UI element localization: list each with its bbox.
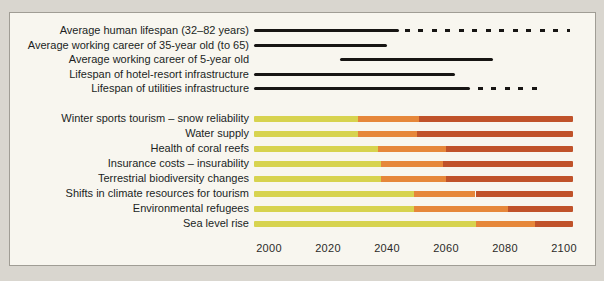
lifespan-line-solid (254, 29, 399, 32)
impact-bar-segment-red (443, 161, 573, 167)
x-axis-tick-label: 2060 (424, 241, 468, 255)
impact-bar-segment-red (535, 221, 573, 227)
impact-bar (254, 131, 573, 137)
impact-bar (254, 221, 573, 227)
lifespan-line-solid (254, 44, 387, 47)
impact-bar-segment-orange (381, 161, 443, 167)
impact-row: Environmental refugees (10, 201, 595, 216)
impact-bar-segment-orange (358, 131, 417, 137)
x-axis-tick-label: 2080 (483, 241, 527, 255)
impact-bar-segment-orange (378, 146, 446, 152)
impact-bar-segment-yellow (254, 146, 378, 152)
impact-bar (254, 176, 573, 182)
lifespan-row-label: Average human lifespan (32–82 years) (10, 23, 249, 38)
impact-bar-segment-red (446, 146, 573, 152)
figure-canvas: { "colors": { "outer_background": "#d9d6… (0, 0, 604, 281)
x-axis-tick-label: 2100 (542, 241, 586, 255)
impact-bar-segment-yellow (254, 221, 475, 227)
x-axis-tick-label: 2000 (247, 241, 291, 255)
lifespan-line-solid (340, 58, 493, 61)
impact-row: Health of coral reefs (10, 141, 595, 156)
impact-row-label: Shifts in climate resources for tourism (10, 186, 249, 201)
lifespan-row: Average working career of 35-year old (t… (10, 38, 595, 53)
impact-bar-segment-orange (414, 206, 508, 212)
impact-bar-segment-red (508, 206, 573, 212)
impact-bar (254, 146, 573, 152)
impact-row-label: Insurance costs – insurability (10, 156, 249, 171)
impact-bar-segment-yellow (254, 206, 413, 212)
lifespan-line-solid (254, 73, 455, 76)
impact-bar-segment-orange (476, 221, 535, 227)
impact-bar (254, 116, 573, 122)
impact-row-label: Terrestrial biodiversity changes (10, 171, 249, 186)
lifespan-line-dashed (478, 87, 543, 90)
impact-row: Winter sports tourism – snow reliability (10, 111, 595, 126)
impact-bar-segment-yellow (254, 131, 357, 137)
impact-bar-segment-orange (358, 116, 420, 122)
impact-bar-segment-yellow (254, 116, 357, 122)
impact-bar-segment-red (476, 191, 573, 197)
lifespan-row: Average working career of 5-year old (10, 52, 595, 67)
lifespan-row-label: Average working career of 35-year old (t… (10, 38, 249, 53)
impact-bar-segment-yellow (254, 191, 413, 197)
impact-row: Insurance costs – insurability (10, 156, 595, 171)
impact-bar-segment-orange (414, 191, 476, 197)
lifespan-line-solid (254, 87, 469, 90)
impact-row: Water supply (10, 126, 595, 141)
impact-row-label: Environmental refugees (10, 201, 249, 216)
impact-bar-segment-red (417, 131, 573, 137)
lifespan-row-label: Lifespan of hotel-resort infrastructure (10, 67, 249, 82)
lifespan-row: Average human lifespan (32–82 years) (10, 23, 595, 38)
impact-row-label: Health of coral reefs (10, 141, 249, 156)
impact-row: Terrestrial biodiversity changes (10, 171, 595, 186)
lifespan-row-label: Lifespan of utilities infrastructure (10, 81, 249, 96)
impact-row: Sea level rise (10, 216, 595, 231)
impact-row: Shifts in climate resources for tourism (10, 186, 595, 201)
x-axis-tick-label: 2020 (306, 241, 350, 255)
impact-bar-segment-orange (381, 176, 446, 182)
impact-bar (254, 161, 573, 167)
impact-row-label: Sea level rise (10, 216, 249, 231)
x-axis: 200020202040206020802100 (10, 241, 595, 257)
impact-bar-segment-red (419, 116, 572, 122)
impact-bar-segment-yellow (254, 161, 381, 167)
impact-row-label: Winter sports tourism – snow reliability (10, 111, 249, 126)
impact-bar-segment-yellow (254, 176, 381, 182)
lifespan-line-dashed (405, 29, 570, 32)
impact-bar-segment-red (446, 176, 573, 182)
impact-row-label: Water supply (10, 126, 249, 141)
x-axis-tick-label: 2040 (365, 241, 409, 255)
lifespan-row: Lifespan of hotel-resort infrastructure (10, 67, 595, 82)
chart-panel: Average human lifespan (32–82 years)Aver… (9, 12, 596, 266)
impact-bar (254, 206, 573, 212)
impact-bar (254, 191, 573, 197)
lifespan-row-label: Average working career of 5-year old (10, 52, 249, 67)
lifespan-row: Lifespan of utilities infrastructure (10, 81, 595, 96)
